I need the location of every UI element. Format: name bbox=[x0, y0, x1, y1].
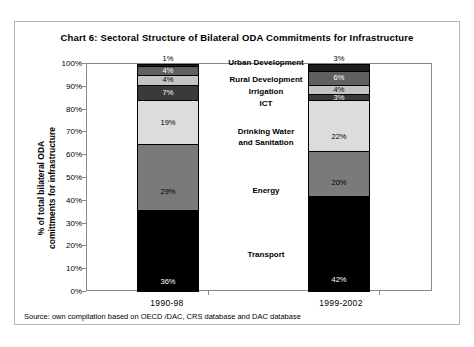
source-note: Source: own compilation based on OECD /D… bbox=[24, 312, 301, 321]
bar0-water-label: 19% bbox=[160, 119, 175, 127]
bar1-transport-label: 42% bbox=[331, 276, 346, 284]
bar0-rural-label: 4% bbox=[163, 67, 174, 75]
bar0-urban-label: 1% bbox=[137, 54, 199, 63]
bar0-segment-drinking-water-and-sanitation[interactable]: 19% bbox=[137, 100, 199, 143]
bar0-segment-energy[interactable]: 29% bbox=[137, 144, 199, 210]
y-axis-title: % of total bilateral ODA comittments for… bbox=[36, 78, 58, 298]
y-tick-mark-0 bbox=[82, 291, 86, 292]
callout-rural-development: Rural Development bbox=[196, 75, 336, 85]
callout-drinking-water-line2: and Sanitation bbox=[196, 138, 336, 148]
bar0-irrigation-label: 4% bbox=[163, 76, 174, 84]
x-tick-mark-0 bbox=[208, 291, 209, 295]
bar0-segment-irrigation[interactable]: 4% bbox=[137, 75, 199, 84]
callout-drinking-water-line1: Drinking Water bbox=[196, 127, 336, 137]
bar0-segment-transport[interactable]: 36% bbox=[137, 210, 199, 292]
y-tick-label-100: 100% bbox=[38, 59, 82, 68]
callout-urban-development: Urban Development bbox=[196, 58, 336, 68]
bar1-segment-transport[interactable]: 42% bbox=[308, 196, 370, 292]
plot-wrapper: 100% 90% 80% 70% 60% 50% 40% 30% 20% 10%… bbox=[0, 0, 474, 347]
x-axis-label-1999-2002: 1999-2002 bbox=[281, 298, 401, 308]
bar0-segment-rural-development[interactable]: 4% bbox=[137, 66, 199, 75]
bar0-segment-ict[interactable]: 7% bbox=[137, 85, 199, 101]
callout-irrigation: Irrigation bbox=[196, 87, 336, 97]
chart-figure: Chart 6: Sectoral Structure of Bilateral… bbox=[0, 0, 474, 347]
bar-1990-98[interactable]: 1% 4% 4% 7% 19% bbox=[137, 64, 199, 290]
callout-energy: Energy bbox=[196, 186, 336, 196]
bar0-energy-label: 29% bbox=[160, 188, 175, 196]
x-tick-mark-1 bbox=[379, 291, 380, 295]
bar0-ict-label: 7% bbox=[163, 89, 174, 97]
bar0-transport-label: 36% bbox=[160, 278, 175, 286]
callout-transport: Transport bbox=[196, 250, 336, 260]
x-axis-label-1990-98: 1990-98 bbox=[107, 298, 227, 308]
y-axis-title-line1: % of total bilateral ODA bbox=[36, 78, 47, 298]
callout-ict: ICT bbox=[196, 99, 336, 109]
y-axis-title-line2: comittments for infrastructure bbox=[47, 78, 58, 298]
